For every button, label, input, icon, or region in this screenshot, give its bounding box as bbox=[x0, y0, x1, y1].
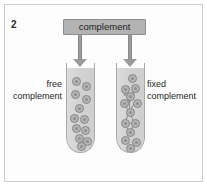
tube-body bbox=[66, 68, 95, 153]
complement-particle bbox=[131, 119, 140, 128]
complement-particle bbox=[133, 99, 142, 108]
complement-particle bbox=[71, 90, 80, 99]
free-complement-label: free complement bbox=[2, 79, 62, 102]
complement-particle bbox=[75, 104, 84, 113]
complement-particle bbox=[70, 114, 79, 123]
tube-body bbox=[116, 68, 145, 153]
fixed-complement-tube bbox=[116, 63, 145, 153]
free-complement-tube bbox=[66, 63, 95, 153]
complement-particle bbox=[128, 74, 137, 83]
fixed-complement-label-line1: fixed bbox=[147, 79, 205, 91]
complement-particle bbox=[72, 77, 81, 86]
complement-particle bbox=[82, 82, 91, 91]
free-complement-label-line1: free bbox=[2, 79, 62, 91]
complement-particle bbox=[77, 142, 86, 151]
complement-particle bbox=[81, 126, 90, 135]
complement-particle bbox=[126, 92, 135, 101]
arrow-shaft bbox=[128, 35, 132, 60]
complement-particle bbox=[126, 108, 135, 117]
complement-particle bbox=[82, 95, 91, 104]
arrow-shaft bbox=[78, 35, 82, 60]
complement-source-label: complement bbox=[79, 22, 131, 32]
complement-particle bbox=[126, 144, 135, 153]
free-complement-label-line2: complement bbox=[2, 91, 62, 103]
fixed-complement-label-line2: complement bbox=[147, 91, 205, 103]
complement-particle bbox=[72, 124, 81, 133]
fixed-complement-label: fixed complement bbox=[147, 79, 205, 102]
complement-particle bbox=[80, 115, 89, 124]
complement-fixation-diagram: 2 complement free complement fixed compl… bbox=[0, 0, 207, 186]
panel-number: 2 bbox=[11, 19, 17, 31]
complement-source-box: complement bbox=[63, 19, 146, 35]
complement-particle bbox=[121, 119, 130, 128]
